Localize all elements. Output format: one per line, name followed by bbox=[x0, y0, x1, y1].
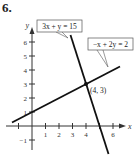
x-axis-label: x bbox=[127, 122, 132, 131]
y-tick-label: 2 bbox=[24, 95, 28, 103]
x-tick-label: 3 bbox=[71, 131, 75, 139]
intersection-point bbox=[84, 82, 88, 86]
y-axis-arrow-icon bbox=[30, 27, 35, 34]
y-tick-label: 4 bbox=[24, 67, 28, 75]
x-axis-arrow-icon bbox=[119, 124, 126, 129]
y-axis-label: y bbox=[24, 21, 29, 30]
y-tick-label: 5 bbox=[24, 53, 28, 61]
x-tick-label: 6 bbox=[111, 131, 115, 139]
intersection-label: (4, 3) bbox=[90, 86, 107, 95]
x-tick-label: 2 bbox=[57, 131, 61, 139]
callout-line1: 3x + y = 15 bbox=[37, 20, 82, 38]
graph: 1 2 3 4 6 6 5 4 3 2 1 −1 x y (4, 3) 3x +… bbox=[0, 0, 138, 162]
callout-line2: −x + 2y = 2 bbox=[88, 38, 133, 67]
x-tick-label: 1 bbox=[44, 131, 48, 139]
x-tick-label: 4 bbox=[84, 131, 88, 139]
callout-line2-text: −x + 2y = 2 bbox=[93, 40, 128, 49]
y-tick-label: −1 bbox=[20, 137, 28, 145]
y-tick-label: 6 bbox=[24, 39, 28, 47]
callout-line1-text: 3x + y = 15 bbox=[42, 22, 77, 31]
y-tick-label: 3 bbox=[24, 81, 28, 89]
